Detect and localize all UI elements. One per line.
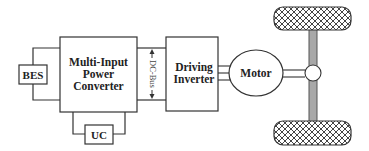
dc-bus: DC-Bus [137, 48, 166, 100]
driving-inverter-block: Driving Inverter [166, 37, 218, 111]
dc-bus-label: DC-Bus [148, 60, 158, 88]
differential-hub [305, 65, 321, 81]
bes-block: BES [19, 65, 47, 84]
motor-block: Motor [229, 50, 283, 96]
multi-input-converter-block: Multi-Input Power Converter [60, 37, 137, 112]
wheel-bottom [274, 121, 351, 145]
powertrain-diagram: BES Multi-Input Power Converter UC DC-Bu… [0, 0, 369, 151]
uc-block: UC [85, 125, 113, 144]
inverter-label-line2: Inverter [174, 73, 215, 85]
converter-label-line2: Power [83, 68, 114, 80]
uc-label: UC [91, 129, 107, 141]
bes-label: BES [23, 69, 44, 81]
motor-shaft [283, 70, 305, 77]
wheel-top [274, 7, 351, 30]
arrow-down-icon [150, 94, 155, 99]
converter-label-line3: Converter [73, 80, 123, 92]
motor-label: Motor [240, 67, 271, 79]
arrow-up-icon [150, 49, 155, 54]
